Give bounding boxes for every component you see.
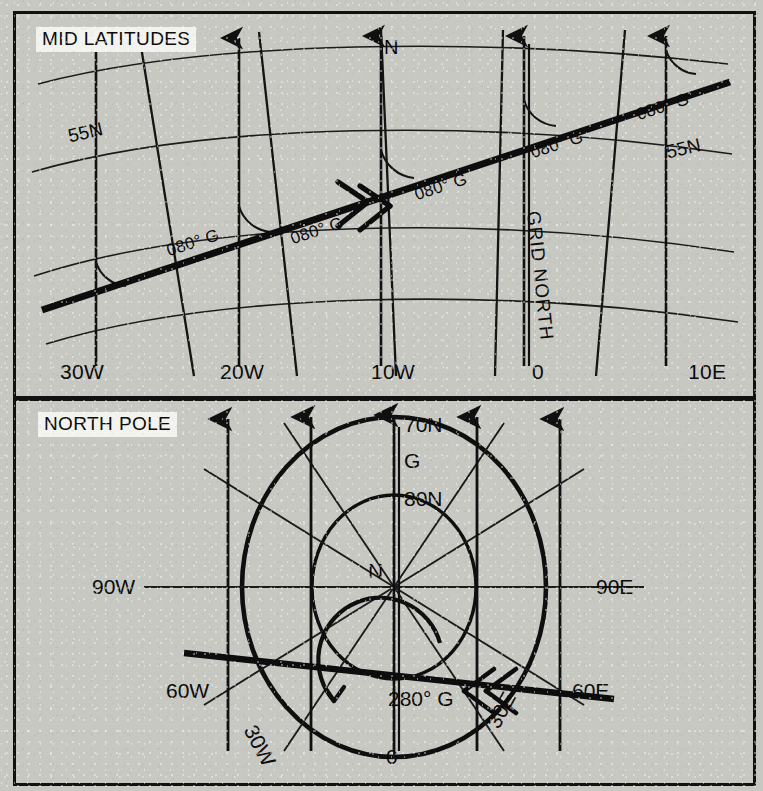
meridian-label-0: 0 <box>386 745 398 769</box>
grid-north-label-pole: G <box>404 449 420 473</box>
panel-title-north-pole: NORTH POLE <box>38 412 177 437</box>
parallel-label-70n: 70N <box>404 413 443 437</box>
panel-north-pole: NORTH POLE 70N G 80N N 90W 90E 60W 60E 3… <box>13 398 756 786</box>
meridian-label-10w: 10W <box>371 360 415 384</box>
meridian-label-0: 0 <box>532 360 544 384</box>
meridian-label-60w: 60W <box>166 679 209 703</box>
panel-mid-latitudes: MID LATITUDES N 55N 55N 080° G 080° G 08… <box>13 11 756 399</box>
meridian-label-90e: 90E <box>596 575 633 599</box>
meridian-label-30w: 30W <box>60 360 104 384</box>
figure-page: MID LATITUDES N 55N 55N 080° G 080° G 08… <box>0 0 763 791</box>
meridian-label-60e: 60E <box>572 679 609 703</box>
meridian-label-90w: 90W <box>92 575 135 599</box>
mid-latitudes-drawing <box>16 14 747 390</box>
meridian-label-20w: 20W <box>220 360 264 384</box>
parallel-label-80n: 80N <box>404 487 443 511</box>
bearing-label-280g: 280° G <box>388 687 454 711</box>
pole-label-n: N <box>368 559 383 583</box>
meridian-label-10e: 10E <box>688 360 726 384</box>
true-north-label-mid: N <box>384 36 398 59</box>
panel-title-mid-latitudes: MID LATITUDES <box>36 27 196 52</box>
